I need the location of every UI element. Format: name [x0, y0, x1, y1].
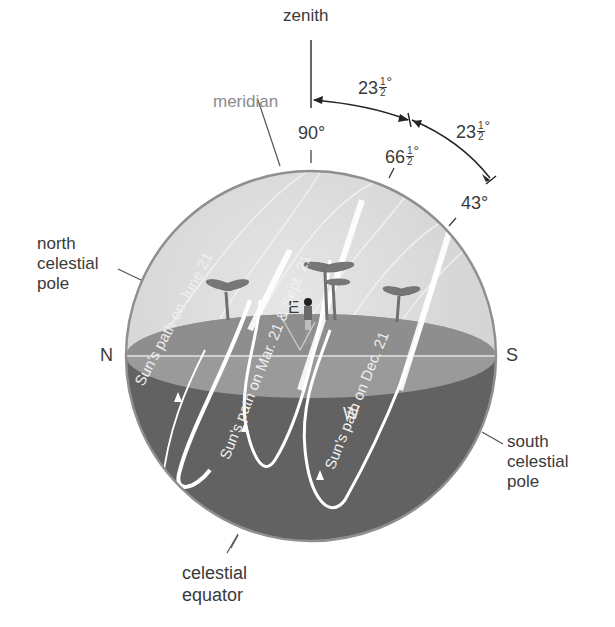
altitude-66-label: 6612°	[385, 147, 419, 169]
arc-1-fraction: 12	[379, 77, 387, 98]
altitude-90-label: 90°	[298, 123, 325, 144]
south-label: S	[506, 345, 518, 365]
zenith-label: zenith	[283, 6, 328, 26]
arc-1-whole: 23	[358, 78, 378, 98]
altitude-43-label: 43°	[461, 193, 488, 214]
meridian-label: meridian	[213, 92, 278, 112]
celestial-equator-label: celestial equator	[182, 562, 247, 606]
celestial-sphere-diagram	[0, 0, 615, 627]
arc-label-1: 2312°	[358, 78, 392, 100]
north-celestial-pole-label: north celestial pole	[37, 234, 98, 294]
north-label: N	[100, 345, 113, 365]
tick-43	[449, 218, 456, 226]
south-celestial-pole-label: south celestial pole	[507, 432, 568, 492]
tick-66	[389, 168, 394, 178]
arc-label-2: 2312°	[456, 122, 490, 144]
